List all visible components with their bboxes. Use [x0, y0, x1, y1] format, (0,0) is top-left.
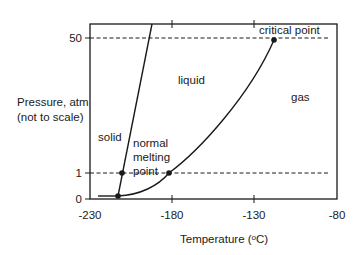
x-axis-title: Temperature (oC) — [180, 231, 268, 246]
triple-point-dot — [115, 193, 121, 199]
x-tick-label--230: -230 — [70, 209, 110, 222]
region-label-liquid: liquid — [178, 74, 205, 87]
normal-melting-point-dot — [119, 170, 125, 176]
y-tick-label-0: 0 — [60, 193, 82, 206]
region-label-solid: solid — [98, 131, 122, 144]
normal-melting-label-line3: point — [133, 165, 158, 178]
y-tick-label-50: 50 — [60, 32, 82, 45]
y-axis-title-line1: Pressure, atm — [17, 96, 89, 109]
x-tick-label--80: -80 — [317, 209, 357, 222]
y-tick-label-1: 1 — [60, 167, 82, 180]
normal-melting-label-line2: melting — [133, 151, 170, 164]
y-axis-title-line2: (not to scale) — [17, 111, 83, 124]
x-tick-label--180: -180 — [152, 209, 192, 222]
critical-point-label: critical point — [259, 24, 320, 37]
normal-melting-label-line1: normal — [133, 137, 168, 150]
x-tick-label--130: -130 — [234, 209, 274, 222]
critical-point-dot — [271, 37, 277, 43]
region-label-gas: gas — [291, 91, 310, 104]
normal-boiling-point-dot — [166, 170, 172, 176]
